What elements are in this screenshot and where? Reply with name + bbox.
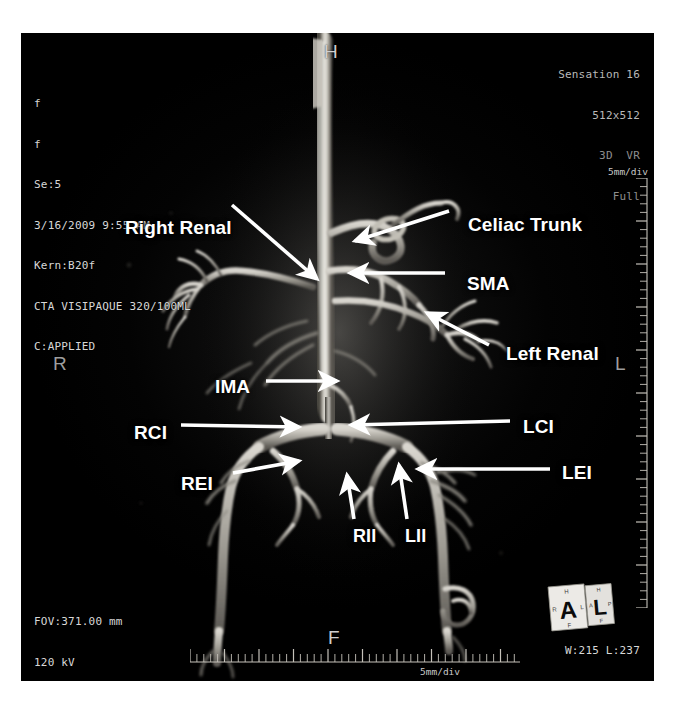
annotation-label-lei: LEI [562, 462, 592, 484]
cube-front-face-label: A [558, 596, 578, 624]
cube-edge-top-label: H [564, 588, 569, 594]
field-of-view: FOV:371.00 mm [34, 615, 123, 629]
window-level-overlay: W:215 L:237 [565, 644, 640, 658]
tube-voltage: 120 kV [34, 656, 123, 670]
annotation-label-rii: RII [353, 526, 376, 547]
orientation-label-head: H [324, 41, 338, 63]
annotation-label-rci: RCI [134, 422, 167, 444]
image-matrix: 512x512 [558, 109, 640, 123]
scanner-model: Sensation 16 [558, 68, 640, 82]
annotation-label-left-renal: Left Renal [506, 343, 599, 365]
cube-side-edge-top-label: H [596, 587, 601, 593]
cube-side-face-label: L [592, 594, 608, 620]
horizontal-scale-ruler [190, 643, 520, 663]
render-mode: 3D VR [558, 149, 640, 163]
image-viewport[interactable]: f f Se:5 3/16/2009 9:55 AM Kern:B20f CTA… [21, 33, 654, 681]
orientation-label-right: R [53, 353, 67, 375]
header-line-2: f [34, 138, 191, 152]
header-line-1: f [34, 97, 191, 111]
annotation-label-lci: LCI [523, 416, 554, 438]
annotation-label-celiac-trunk: Celiac Trunk [468, 214, 582, 236]
annotation-label-rei: REI [181, 473, 213, 495]
annotation-label-right-renal: Right Renal [125, 217, 232, 239]
vertical-ruler-label: 5mm/div [608, 166, 648, 177]
orientation-cube[interactable]: A L H F R L H F A P [546, 579, 622, 637]
series-number: Se:5 [34, 178, 191, 192]
acquisition-parameters-overlay: FOV:371.00 mm 120 kV 145 mA Tilt:0.00 LA… [34, 588, 123, 681]
annotation-label-lii: LII [405, 526, 426, 547]
annotation-label-ima: IMA [215, 376, 250, 398]
dicom-viewer-page: f f Se:5 3/16/2009 9:55 AM Kern:B20f CTA… [0, 0, 675, 701]
correction-status: C:APPLIED [34, 340, 191, 354]
horizontal-ruler-label: 5mm/div [420, 666, 460, 677]
vertical-scale-ruler [622, 178, 648, 608]
annotation-label-sma: SMA [467, 273, 510, 295]
recon-kernel: Kern:B20f [34, 259, 191, 273]
contrast-protocol: CTA VISIPAQUE 320/100ML [34, 300, 191, 314]
